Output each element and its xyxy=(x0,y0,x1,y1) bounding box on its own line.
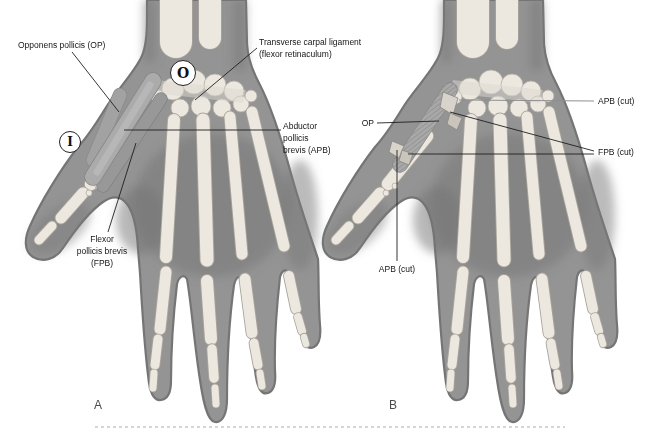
leader-opponens xyxy=(72,52,119,112)
origin-marker: O xyxy=(170,60,196,86)
panel-b-caption: B xyxy=(389,398,397,412)
figure-artwork xyxy=(0,0,657,434)
hand-b-illustration xyxy=(317,0,617,422)
label-abductor-pollicis-brevis: Abductor pollicis brevis (APB) xyxy=(283,120,331,156)
label-apb-cut-bottom: APB (cut) xyxy=(367,263,427,275)
insertion-marker: I xyxy=(59,131,81,153)
label-fpb-cut: FPB (cut) xyxy=(598,146,634,158)
anatomy-figure: Opponens pollicis (OP) Transverse carpal… xyxy=(0,0,657,434)
label-flexor-pollicis-brevis: Flexor pollicis brevis (FPB) xyxy=(64,233,140,269)
hand-a-illustration xyxy=(20,0,320,422)
panel-a-caption: A xyxy=(94,398,102,412)
label-op-b: OP xyxy=(348,117,374,129)
label-transverse-carpal-ligament: Transverse carpal ligament (flexor retin… xyxy=(259,36,361,60)
label-opponens-pollicis: Opponens pollicis (OP) xyxy=(18,39,105,51)
label-apb-cut-top: APB (cut) xyxy=(598,95,634,107)
